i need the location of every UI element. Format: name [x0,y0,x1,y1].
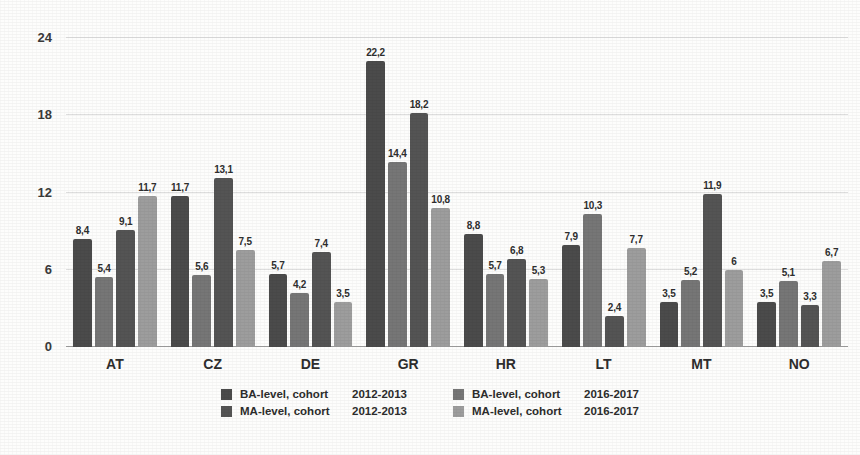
bar-slot: 11,7 [171,38,190,347]
bar-chart-figure: 06121824 8,45,49,111,7AT11,75,613,17,5CZ… [0,0,860,455]
bar-group-lt: 7,910,32,47,7LT [555,38,653,347]
bar-lt-series1[interactable]: 7,9 [562,245,581,347]
bar-at-series4[interactable]: 11,7 [138,196,157,347]
bar-value-label: 3,5 [662,288,675,299]
bar-hr-series1[interactable]: 8,8 [464,234,483,347]
bar-value-label: 4,2 [293,279,306,290]
bar-group-cz: 11,75,613,17,5CZ [164,38,262,347]
bar-value-label: 14,4 [388,148,407,159]
bar-value-label: 8,8 [467,220,480,231]
bar-slot: 13,1 [214,38,233,347]
bar-slot: 5,7 [269,38,288,347]
bar-group-hr: 8,85,76,85,3HR [457,38,555,347]
bar-slot: 10,8 [431,38,450,347]
bar-groups: 8,45,49,111,7AT11,75,613,17,5CZ5,74,27,4… [66,38,848,347]
plot-area: 06121824 8,45,49,111,7AT11,75,613,17,5CZ… [66,38,848,347]
bar-de-series1[interactable]: 5,7 [269,274,288,347]
bar-value-label: 7,4 [315,238,328,249]
bar-slot: 3,5 [334,38,353,347]
legend-item[interactable]: MA-level, cohort2016-2017 [453,405,639,417]
bar-lt-series3[interactable]: 2,4 [605,316,624,347]
bar-slot: 18,2 [410,38,429,347]
bar-no-series1[interactable]: 3,5 [757,302,776,347]
bar-hr-series2[interactable]: 5,7 [486,274,505,347]
bar-at-series1[interactable]: 8,4 [73,239,92,347]
legend-swatch-icon [221,406,232,417]
bar-slot: 9,1 [116,38,135,347]
bar-slot: 7,5 [236,38,255,347]
bar-gr-series4[interactable]: 10,8 [431,208,450,347]
bar-at-series3[interactable]: 9,1 [116,230,135,347]
legend-swatch-icon [453,389,464,400]
bar-value-label: 6 [731,256,736,267]
bar-value-label: 10,3 [583,200,602,211]
bar-value-label: 5,1 [782,267,795,278]
y-axis-tick-label: 24 [38,30,52,45]
bar-slot: 22,2 [366,38,385,347]
bar-value-label: 6,7 [825,247,838,258]
bar-group-de: 5,74,27,43,5DE [262,38,360,347]
bar-no-series4[interactable]: 6,7 [822,261,841,347]
bar-value-label: 3,5 [760,288,773,299]
legend-item[interactable]: BA-level, cohort2016-2017 [453,388,639,400]
legend-swatch-icon [221,389,232,400]
legend-item[interactable]: MA-level, cohort2012-2013 [221,405,407,417]
legend-item[interactable]: BA-level, cohort2012-2013 [221,388,407,400]
bar-value-label: 7,5 [239,236,252,247]
bar-slot: 3,5 [660,38,679,347]
bar-value-label: 10,8 [431,194,450,205]
bar-slot: 5,4 [95,38,114,347]
bar-no-series2[interactable]: 5,1 [779,281,798,347]
bar-slot: 5,7 [486,38,505,347]
bar-cz-series2[interactable]: 5,6 [192,275,211,347]
bar-value-label: 6,8 [510,245,523,256]
x-axis-label-at: AT [66,356,164,372]
bar-slot: 4,2 [290,38,309,347]
bar-value-label: 5,2 [684,266,697,277]
legend-label: MA-level, cohort [472,405,576,417]
bar-lt-series2[interactable]: 10,3 [583,214,602,347]
bar-value-label: 7,7 [630,234,643,245]
legend-label: BA-level, cohort [472,388,576,400]
bar-no-series3[interactable]: 3,3 [801,305,820,347]
x-axis-label-gr: GR [359,356,457,372]
bar-hr-series4[interactable]: 5,3 [529,279,548,347]
y-axis-tick-label: 12 [38,184,52,199]
legend-swatch-icon [453,406,464,417]
bar-mt-series2[interactable]: 5,2 [681,280,700,347]
bar-value-label: 5,6 [195,261,208,272]
bar-value-label: 2,4 [608,302,621,313]
bar-value-label: 9,1 [119,216,132,227]
bar-mt-series1[interactable]: 3,5 [660,302,679,347]
bar-cz-series1[interactable]: 11,7 [171,196,190,347]
bar-mt-series3[interactable]: 11,9 [703,194,722,347]
bar-slot: 2,4 [605,38,624,347]
bar-group-mt: 3,55,211,96MT [653,38,751,347]
bar-cz-series3[interactable]: 13,1 [214,178,233,347]
bar-slot: 5,6 [192,38,211,347]
bar-at-series2[interactable]: 5,4 [95,277,114,347]
bar-hr-series3[interactable]: 6,8 [507,259,526,347]
x-axis-label-de: DE [262,356,360,372]
bar-gr-series1[interactable]: 22,2 [366,61,385,347]
bar-value-label: 3,3 [803,291,816,302]
bar-de-series2[interactable]: 4,2 [290,293,309,347]
bar-slot: 7,4 [312,38,331,347]
bar-de-series3[interactable]: 7,4 [312,252,331,347]
bar-slot: 3,5 [757,38,776,347]
bar-slot: 6,7 [822,38,841,347]
bar-slot: 10,3 [583,38,602,347]
bar-lt-series4[interactable]: 7,7 [627,248,646,347]
bar-de-series4[interactable]: 3,5 [334,302,353,347]
bar-value-label: 5,7 [488,260,501,271]
legend-column-2: BA-level, cohort2016-2017MA-level, cohor… [453,388,639,417]
x-axis-label-hr: HR [457,356,555,372]
bar-gr-series2[interactable]: 14,4 [388,162,407,347]
bar-mt-series4[interactable]: 6 [725,270,744,347]
bar-value-label: 13,1 [214,164,233,175]
bar-slot: 14,4 [388,38,407,347]
bar-cz-series4[interactable]: 7,5 [236,250,255,347]
bar-value-label: 5,7 [271,260,284,271]
legend-cohort: 2012-2013 [352,405,407,417]
bar-gr-series3[interactable]: 18,2 [410,113,429,347]
